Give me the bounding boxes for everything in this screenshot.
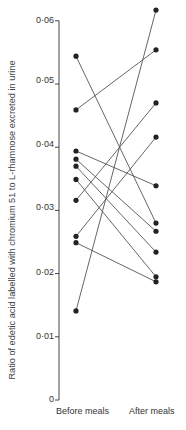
paired-line (76, 159, 156, 231)
paired-line (76, 56, 156, 223)
y-tick-label: 0·04 (20, 139, 54, 149)
y-tick-label: 0·05 (20, 75, 54, 85)
paired-line (76, 151, 156, 186)
data-point (153, 100, 158, 105)
data-point (153, 183, 158, 188)
y-tick-label: 0·01 (20, 331, 54, 341)
data-point (73, 234, 78, 239)
data-point (73, 240, 78, 245)
data-point (73, 148, 78, 153)
chart-plot (0, 0, 186, 430)
data-point (73, 107, 78, 112)
y-tick-label: 0·03 (20, 202, 54, 212)
x-category-before: Before meals (56, 406, 109, 416)
y-tick-label: 0 (20, 394, 54, 404)
data-point (153, 220, 158, 225)
data-point (73, 54, 78, 59)
data-point (73, 308, 78, 313)
paired-line (76, 50, 156, 110)
data-point (73, 157, 78, 162)
data-point (153, 47, 158, 52)
data-point (153, 134, 158, 139)
data-point (153, 7, 158, 12)
y-tick-label: 0·02 (20, 267, 54, 277)
data-point (153, 274, 158, 279)
paired-line (76, 10, 156, 311)
paired-line (76, 166, 156, 252)
data-point (153, 250, 158, 255)
data-point (73, 177, 78, 182)
data-point (73, 164, 78, 169)
x-category-after: After meals (129, 406, 175, 416)
data-point (153, 229, 158, 234)
data-point (153, 279, 158, 284)
y-axis-label: Ratio of edetic acid labelled with chrom… (7, 55, 19, 385)
y-tick-label: 0·06 (20, 15, 54, 25)
data-point (73, 198, 78, 203)
